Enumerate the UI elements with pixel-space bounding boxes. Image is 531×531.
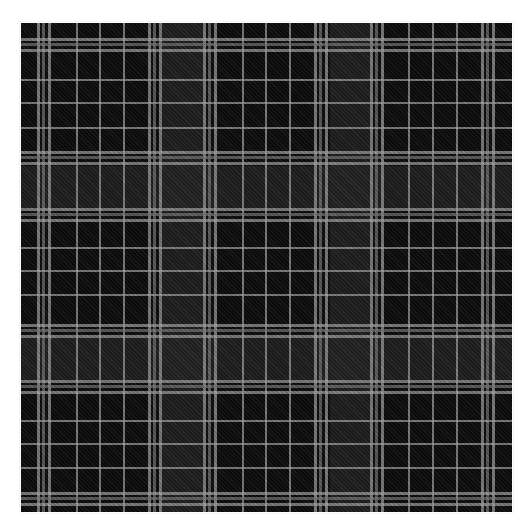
tartan-fabric-swatch: [21, 23, 512, 512]
stripe-horizontal: [21, 380, 512, 383]
stripe-vertical: [492, 23, 495, 512]
stripe-vertical: [408, 23, 410, 512]
stripe-horizontal: [21, 79, 512, 81]
stripe-vertical: [37, 23, 40, 512]
stripe-horizontal: [21, 219, 512, 222]
stripe-horizontal: [21, 247, 512, 249]
stripe-vertical: [265, 23, 267, 512]
stripe-vertical: [208, 23, 211, 512]
stripe-horizontal: [21, 49, 512, 52]
stripe-vertical: [289, 23, 291, 512]
stripe-horizontal: [21, 38, 512, 41]
stripe-vertical: [456, 23, 458, 512]
stripe-horizontal: [21, 127, 512, 129]
stripe-horizontal: [21, 467, 512, 469]
stripe-horizontal: [21, 420, 512, 422]
stripe-horizontal: [21, 151, 512, 154]
stripe-horizontal: [21, 324, 512, 327]
stripe-vertical: [319, 23, 322, 512]
stripe-horizontal: [21, 294, 512, 296]
stripe-vertical: [153, 23, 156, 512]
stripe-vertical: [203, 23, 206, 512]
stripe-vertical: [432, 23, 434, 512]
stripe-horizontal: [21, 156, 512, 159]
stripe-horizontal: [21, 102, 512, 104]
stripe-horizontal: [21, 43, 512, 46]
stripe-horizontal: [21, 503, 512, 506]
stripe-vertical: [159, 23, 162, 512]
stripe-horizontal: [21, 443, 512, 445]
stripe-horizontal: [21, 385, 512, 388]
stripe-vertical: [148, 23, 151, 512]
stripe-horizontal: [21, 208, 512, 211]
stripe-vertical: [381, 23, 384, 512]
stripe-vertical: [242, 23, 244, 512]
stripe-vertical: [76, 23, 78, 512]
dark-band-vertical: [330, 23, 370, 512]
stripe-vertical: [486, 23, 489, 512]
stripe-horizontal: [21, 335, 512, 338]
stripe-vertical: [481, 23, 484, 512]
stripe-horizontal: [21, 497, 512, 500]
stripe-vertical: [99, 23, 101, 512]
stripe-vertical: [42, 23, 45, 512]
stripe-vertical: [325, 23, 328, 512]
stripe-horizontal: [21, 162, 512, 165]
stripe-vertical: [375, 23, 378, 512]
stripe-horizontal: [21, 213, 512, 216]
stripe-vertical: [48, 23, 51, 512]
stripe-horizontal: [21, 391, 512, 394]
dark-band-vertical: [162, 23, 203, 512]
stripe-horizontal: [21, 270, 512, 272]
stripe-vertical: [370, 23, 373, 512]
stripe-vertical: [214, 23, 217, 512]
stripe-vertical: [314, 23, 317, 512]
stripe-horizontal: [21, 492, 512, 495]
stripe-vertical: [123, 23, 125, 512]
stripe-horizontal: [21, 329, 512, 332]
